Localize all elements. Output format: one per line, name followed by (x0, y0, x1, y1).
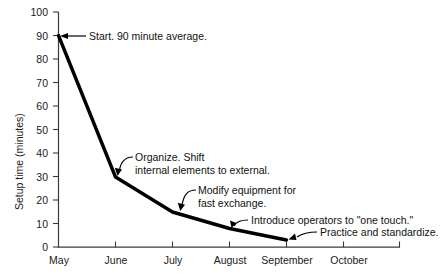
leader-line-modify (178, 190, 196, 211)
y-tick-label-40: 40 (22, 148, 48, 159)
y-tick-label-100: 100 (22, 7, 48, 18)
annotation-modify-line1: Modify equipment for (198, 184, 296, 197)
x-tick-label-october: October (315, 255, 383, 266)
y-tick-label-70: 70 (22, 78, 48, 89)
leader-line-one-touch (230, 220, 248, 228)
x-tick-label-june: June (90, 255, 142, 266)
y-tick-label-60: 60 (22, 101, 48, 112)
annotation-organize-line2: internal elements to external. (135, 164, 270, 177)
leader-line-practice (289, 232, 318, 240)
setup-time-reduction-chart: Setup time (minutes) 100 90 80 70 60 50 … (0, 0, 443, 280)
y-axis-ticks (53, 12, 59, 247)
annotation-practice: Practice and standardize. (320, 226, 438, 239)
annotation-one-touch: Introduce operators to "one touch." (251, 214, 413, 227)
x-tick-label-july: July (147, 255, 199, 266)
y-tick-label-90: 90 (22, 31, 48, 42)
y-tick-label-20: 20 (22, 195, 48, 206)
y-tick-label-0: 0 (22, 242, 48, 253)
leader-line-organize (115, 157, 133, 176)
y-tick-label-10: 10 (22, 219, 48, 230)
x-axis-ticks (116, 242, 400, 248)
x-tick-label-may: May (38, 255, 80, 266)
setup-time-series-line (59, 36, 287, 241)
annotation-start: Start. 90 minute average. (89, 30, 207, 43)
y-tick-label-50: 50 (22, 125, 48, 136)
annotation-modify-line2: fast exchange. (198, 197, 266, 210)
leader-line-start (60, 33, 86, 39)
y-tick-label-80: 80 (22, 54, 48, 65)
y-tick-label-30: 30 (22, 172, 48, 183)
annotation-organize-line1: Organize. Shift (135, 151, 204, 164)
